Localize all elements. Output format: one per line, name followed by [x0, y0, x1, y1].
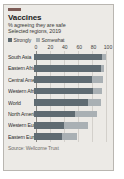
- bar-track: [34, 97, 108, 108]
- bar-segment-strongly: [34, 99, 88, 106]
- stacked-bar: [34, 76, 103, 83]
- bar-track: [34, 51, 108, 62]
- bar-row-label: South Asia: [8, 54, 34, 60]
- bar-row-label: Eastern Europe: [8, 134, 34, 140]
- bar-row-label: Western Africa: [8, 88, 34, 94]
- source-note: Source: Wellcome Trust: [8, 145, 110, 151]
- legend-item-strongly: Strongly: [8, 37, 31, 43]
- bar-row: Eastern Africa: [8, 63, 108, 74]
- bar-row-label: Central America: [8, 77, 34, 83]
- bar-rows: South AsiaEastern AfricaCentral AmericaW…: [8, 51, 108, 142]
- stacked-bar: [34, 88, 102, 95]
- chart-card: Vaccines % agreeing they are safe Select…: [3, 4, 114, 171]
- stacked-bar: [34, 99, 101, 106]
- bar-segment-somewhat: [101, 65, 105, 72]
- x-tick-label: 40: [62, 44, 68, 50]
- bar-segment-somewhat: [102, 54, 106, 61]
- bar-track: [34, 74, 108, 85]
- stacked-bar: [34, 65, 104, 72]
- bar-row-label: North America: [8, 111, 34, 117]
- stacked-bar: [34, 54, 106, 61]
- bar-row: Western Africa: [8, 85, 108, 96]
- bar-track: [34, 131, 108, 142]
- bar-row-label: Eastern Africa: [8, 65, 34, 71]
- x-tick-label: 0: [35, 44, 38, 50]
- bar-row-label: Western Europe: [8, 122, 34, 128]
- chart-title: Vaccines: [8, 13, 110, 22]
- bar-segment-somewhat: [93, 88, 102, 95]
- plot-area: 020406080100 South AsiaEastern AfricaCen…: [8, 44, 110, 142]
- card-inner: Vaccines % agreeing they are safe Select…: [8, 8, 110, 168]
- x-tick-label: 80: [91, 44, 97, 50]
- bar-row: Central America: [8, 74, 108, 85]
- legend-label-strongly: Strongly: [14, 37, 32, 43]
- x-tick-label: 20: [48, 44, 54, 50]
- bar-row: North America: [8, 108, 108, 119]
- bar-segment-strongly: [34, 65, 101, 72]
- bar-segment-somewhat: [88, 99, 101, 106]
- bar-segment-strongly: [34, 88, 93, 95]
- chart-period-note: Selected regions, 2019: [8, 28, 110, 34]
- bar-segment-somewhat: [92, 76, 103, 83]
- brand-accent-bar: [8, 8, 21, 11]
- stacked-bar: [34, 111, 97, 118]
- legend-label-somewhat: Somewhat: [42, 37, 65, 43]
- bar-segment-somewhat: [75, 111, 97, 118]
- bar-row: Eastern Europe: [8, 131, 108, 142]
- bar-segment-strongly: [34, 133, 62, 140]
- bar-row-label: World: [8, 100, 34, 106]
- legend-swatch-strongly: [8, 38, 12, 42]
- bar-track: [34, 63, 108, 74]
- bar-segment-somewhat: [62, 133, 77, 140]
- x-tick-label: 100: [104, 44, 112, 50]
- bar-row: World: [8, 97, 108, 108]
- x-axis-tick-labels: 020406080100: [36, 44, 108, 51]
- stacked-bar: [34, 133, 77, 140]
- legend-item-somewhat: Somewhat: [36, 37, 64, 43]
- bar-track: [34, 85, 108, 96]
- chart-legend: Strongly Somewhat: [8, 37, 110, 43]
- bar-track: [34, 120, 108, 131]
- x-tick-label: 60: [76, 44, 82, 50]
- bar-segment-strongly: [34, 111, 75, 118]
- bar-row: Western Europe: [8, 120, 108, 131]
- bar-segment-strongly: [34, 122, 64, 129]
- bar-segment-strongly: [34, 54, 102, 61]
- bar-segment-somewhat: [64, 122, 88, 129]
- stacked-bar: [34, 122, 88, 129]
- bar-row: South Asia: [8, 51, 108, 62]
- legend-swatch-somewhat: [36, 38, 40, 42]
- bar-track: [34, 108, 108, 119]
- bar-segment-strongly: [34, 76, 92, 83]
